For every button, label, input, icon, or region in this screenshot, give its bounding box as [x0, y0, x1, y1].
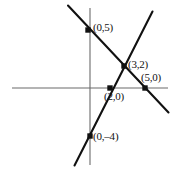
point-label-5-0: (5,0) — [141, 71, 161, 83]
plot-svg — [0, 0, 177, 172]
point-label-2-0: (2,0) — [104, 90, 124, 102]
point-marker-0-neg4 — [87, 133, 92, 138]
point-marker-3-2 — [121, 63, 126, 68]
point-label-0-neg4: (0,–4) — [93, 130, 118, 142]
point-label-3-2: (3,2) — [128, 58, 148, 70]
point-marker-0-5 — [85, 27, 90, 32]
point-label-0-5: (0,5) — [93, 21, 113, 33]
point-marker-5-0 — [142, 85, 147, 90]
coordinate-graph-figure: (0,5) (3,2) (5,0) (2,0) (0,–4) — [0, 0, 177, 172]
